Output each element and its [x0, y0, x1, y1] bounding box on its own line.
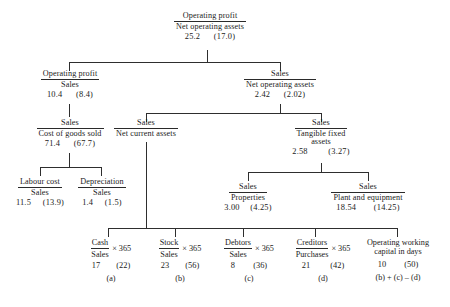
cash-comparison: (22) [116, 261, 130, 270]
creditors-denominator: Purchases [296, 249, 329, 259]
owc-values: 10 (50) [350, 260, 446, 269]
creditors-numerator: Creditors [296, 238, 329, 249]
depreciation-denominator: Sales [78, 188, 125, 197]
connector-bottom-drop-d [315, 228, 316, 237]
cogs-numerator: Sales [37, 119, 104, 129]
labour-fraction: Labour cost Sales [18, 178, 62, 197]
stock-comparison: (56) [185, 261, 199, 270]
connector-plant-drop [368, 172, 369, 181]
connector-bottom-drop-c [243, 228, 244, 237]
properties-denominator: Properties [229, 193, 267, 202]
connector-level2-right-bar [146, 113, 322, 114]
plant-value: 18.54 [336, 204, 356, 212]
node-net-current-assets: Sales Net current assets [108, 119, 184, 139]
labour-denominator: Sales [18, 188, 62, 197]
owc-label: Operating working capital in days [350, 238, 446, 257]
tangible-value: 2.58 [292, 148, 307, 156]
connector-leaf-left-bar [40, 167, 102, 168]
connector-leaf-right-bar [248, 172, 369, 173]
creditors-comparison: (42) [330, 261, 344, 270]
margin-fraction: Operating profit Sales [41, 70, 100, 89]
asset-turn-comparison: (2.02) [284, 91, 305, 99]
cash-denominator: Sales [91, 249, 109, 259]
depreciation-value: 1.4 [82, 199, 93, 207]
root-comparison: (17.0) [214, 33, 235, 41]
tangible-denominator-line2: assets [295, 138, 348, 147]
connector-asset-turn-stem [280, 104, 281, 113]
debtors-values: 8 (36) [211, 261, 287, 270]
debtors-denominator: Sales [224, 249, 252, 259]
depreciation-values: 1.4 (1.5) [69, 199, 135, 207]
owc-tag: (b) + (c) – (d) [350, 273, 446, 282]
properties-value: 3.00 [224, 204, 239, 212]
labour-numerator: Labour cost [18, 178, 62, 188]
margin-values: 10.4 (8.4) [20, 91, 120, 99]
leaf-debtors: Debtors Sales × 365 8 (36) (c) [211, 238, 287, 283]
properties-numerator: Sales [229, 183, 267, 193]
cogs-fraction: Sales Cost of goods sold [37, 119, 104, 138]
tangible-fraction: Sales Tangible fixed assets [295, 119, 348, 147]
creditors-fraction: Creditors Purchases [296, 238, 329, 259]
asset-turn-numerator: Sales [244, 70, 316, 80]
connector-bottom-drop-b [175, 228, 176, 237]
properties-values: 3.00 (4.25) [215, 204, 281, 212]
node-cost-of-goods-sold: Sales Cost of goods sold 71.4 (67.7) [20, 119, 120, 149]
cogs-values: 71.4 (67.7) [20, 140, 120, 148]
connector-nca-long-stem [146, 142, 147, 228]
connector-margin-stem [69, 104, 70, 117]
depreciation-comparison: (1.5) [105, 199, 122, 207]
cash-value: 17 [92, 261, 100, 270]
stock-fraction: Stock Sales [159, 238, 180, 259]
plant-fraction: Sales Plant and equipment [331, 183, 404, 202]
stock-numerator: Stock [159, 238, 180, 249]
root-fraction: Operating profit Net operating assets [174, 12, 246, 31]
owc-label-line2: capital in days [374, 247, 421, 256]
owc-comparison: (50) [404, 260, 418, 269]
tangible-values: 2.58 (3.27) [275, 148, 367, 156]
root-values: 25.2 (17.0) [150, 33, 270, 41]
node-operating-margin: Operating profit Sales 10.4 (8.4) [20, 70, 120, 100]
cogs-value: 71.4 [45, 140, 60, 148]
stock-values: 23 (56) [145, 261, 215, 270]
debtors-value: 8 [231, 261, 235, 270]
cogs-comparison: (67.7) [74, 140, 95, 148]
plant-comparison: (14.25) [374, 204, 400, 212]
creditors-value: 21 [302, 261, 310, 270]
labour-comparison: (13.9) [43, 199, 64, 207]
connector-cogs-stem [69, 153, 70, 167]
connector-bottom-drop-e [397, 228, 398, 237]
asset-turn-values: 2.42 (2.02) [219, 91, 341, 99]
debtors-multiplier: × 365 [252, 244, 274, 253]
nca-numerator: Sales [114, 119, 178, 129]
connector-tangible-stem [321, 163, 322, 172]
connector-level1-bar [69, 62, 281, 63]
leaf-cash: Cash Sales × 365 17 (22) (a) [76, 238, 146, 283]
margin-numerator: Operating profit [41, 70, 100, 80]
margin-comparison: (8.4) [76, 91, 93, 99]
node-depreciation: Depreciation Sales 1.4 (1.5) [69, 178, 135, 208]
cash-tag: (a) [76, 274, 146, 283]
cash-multiplier: × 365 [109, 244, 131, 253]
connector-leaf-right-drop [101, 167, 102, 176]
node-plant-and-equipment: Sales Plant and equipment 18.54 (14.25) [312, 183, 424, 213]
plant-values: 18.54 (14.25) [312, 204, 424, 212]
margin-denominator: Sales [41, 80, 100, 89]
root-numerator: Operating profit [174, 12, 246, 22]
depreciation-fraction: Depreciation Sales [78, 178, 125, 197]
nca-denominator: Net current assets [114, 129, 178, 138]
node-root: Operating profit Net operating assets 25… [150, 12, 270, 42]
labour-value: 11.5 [16, 199, 31, 207]
node-asset-turnover: Sales Net operating assets 2.42 (2.02) [219, 70, 341, 100]
asset-turn-value: 2.42 [255, 91, 270, 99]
root-value: 25.2 [185, 33, 200, 41]
debtors-fraction: Debtors Sales [224, 238, 252, 259]
connector-bottom-drop-a [108, 228, 109, 237]
stock-denominator: Sales [159, 249, 180, 259]
stock-multiplier: × 365 [179, 244, 201, 253]
root-denominator: Net operating assets [174, 22, 246, 31]
plant-numerator: Sales [331, 183, 404, 193]
leaf-stock: Stock Sales × 365 23 (56) (b) [145, 238, 215, 283]
asset-turn-denominator: Net operating assets [244, 80, 316, 89]
margin-value: 10.4 [47, 91, 62, 99]
connector-properties-drop [248, 172, 249, 181]
